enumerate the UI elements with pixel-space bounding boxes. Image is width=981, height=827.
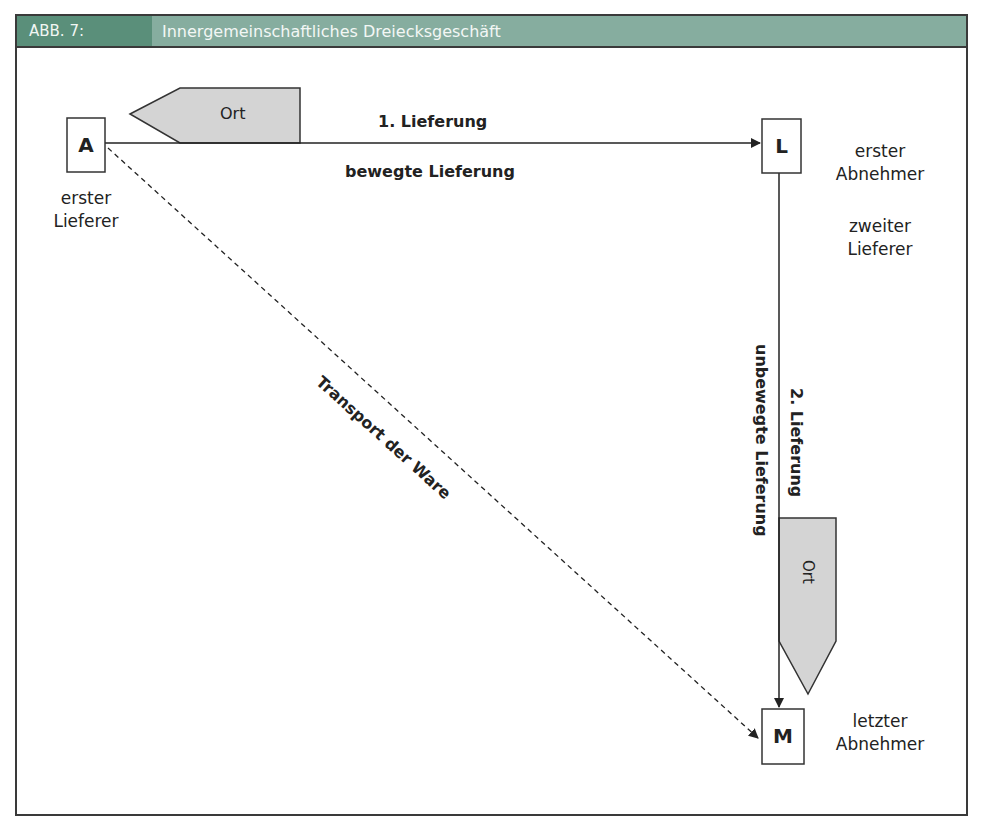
first-delivery-sublabel: bewegte Lieferung bbox=[345, 162, 515, 181]
second-delivery-label: 2. Lieferung bbox=[787, 388, 806, 497]
node-m-caption: letzter Abnehmer bbox=[830, 710, 930, 756]
node-m-letter: M bbox=[762, 724, 804, 748]
first-delivery-label: 1. Lieferung bbox=[378, 112, 487, 131]
place-marker-1-shape bbox=[130, 88, 300, 143]
second-delivery-sublabel: unbewegte Lieferung bbox=[752, 344, 771, 537]
place-marker-1-label: Ort bbox=[220, 104, 245, 123]
node-l-caption: erster Abnehmer bbox=[830, 140, 930, 186]
diagram-canvas bbox=[0, 0, 981, 827]
node-l-letter: L bbox=[762, 134, 801, 158]
transport-arrow bbox=[108, 148, 758, 738]
node-a-caption: erster Lieferer bbox=[40, 187, 132, 233]
node-a-letter: A bbox=[67, 133, 105, 157]
node-l-caption-2: zweiter Lieferer bbox=[830, 215, 930, 261]
place-marker-2-shape bbox=[779, 518, 836, 694]
place-marker-2-label: Ort bbox=[799, 560, 817, 584]
